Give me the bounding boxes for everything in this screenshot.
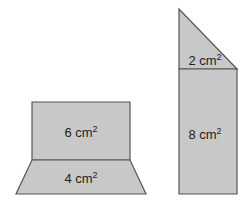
left-trapezoid-label: 4 cm2 [64,170,97,186]
right-triangle-label: 2 cm2 [188,52,221,68]
left-rectangle-label: 6 cm2 [64,124,97,140]
right-rectangle-label: 8 cm2 [188,126,221,142]
area-diagram [0,0,245,208]
